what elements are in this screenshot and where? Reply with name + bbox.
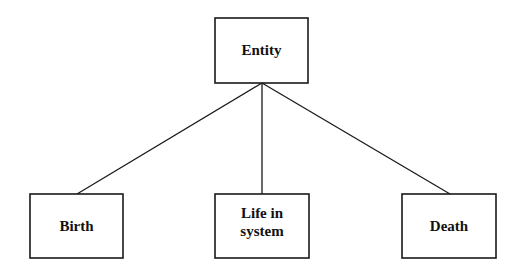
node-birth: Birth <box>30 194 123 258</box>
node-death: Death <box>402 194 496 258</box>
node-label-life-in-system-line2: system <box>240 223 284 239</box>
node-label-birth: Birth <box>59 218 94 234</box>
node-label-entity: Entity <box>241 42 282 58</box>
hierarchy-diagram: Entity Birth Life in system Death <box>0 0 525 275</box>
edges <box>77 83 450 194</box>
edge-entity-birth <box>77 83 262 194</box>
node-entity: Entity <box>215 18 308 83</box>
node-label-life-in-system-line1: Life in <box>241 205 284 221</box>
node-life-in-system: Life in system <box>215 194 309 258</box>
node-label-death: Death <box>430 218 469 234</box>
edge-entity-death <box>262 83 450 194</box>
